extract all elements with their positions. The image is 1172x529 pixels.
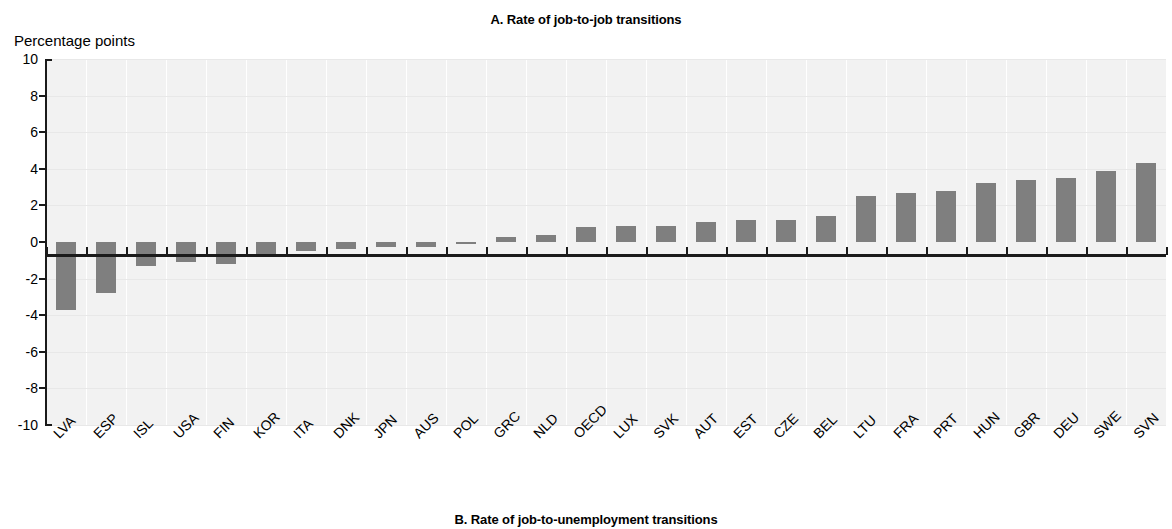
x-axis-tick (806, 247, 808, 255)
x-axis-tick (526, 247, 528, 255)
y-axis-tick-label: 10 (4, 52, 38, 66)
bar-est (736, 220, 756, 242)
bar-aut (696, 222, 716, 242)
x-axis-tick (246, 247, 248, 255)
y-axis-tick-label: 0 (4, 235, 38, 249)
x-axis-category-labels: LVAESPISLUSAFINKORITADNKJPNAUSPOLGRCNLDO… (46, 430, 1166, 490)
bar-oecd (576, 227, 596, 242)
x-axis-tick (86, 247, 88, 255)
y-axis-tick-label: 4 (4, 162, 38, 176)
y-axis-tick-label: 2 (4, 198, 38, 212)
bar-ltu (856, 196, 876, 242)
x-axis-tick (326, 247, 328, 255)
bar-kor (256, 242, 276, 255)
bar-deu (1056, 178, 1076, 242)
bar-bel (816, 216, 836, 242)
bar-grc (496, 237, 516, 242)
bar-lux (616, 226, 636, 242)
bar-nld (536, 235, 556, 242)
bar-ita (296, 242, 316, 251)
y-axis-tick-label: -4 (4, 308, 38, 322)
x-axis-tick (766, 247, 768, 255)
y-axis-tick-label: -2 (4, 272, 38, 286)
bar-fin (216, 242, 236, 264)
x-axis-tick (1126, 247, 1128, 255)
bar-prt (936, 191, 956, 242)
bar-lva (56, 242, 76, 310)
y-axis-unit-label: Percentage points (14, 32, 135, 49)
x-axis-tick (686, 247, 688, 255)
x-axis-tick (886, 247, 888, 255)
x-axis-tick (1006, 247, 1008, 255)
x-axis-tick (1046, 247, 1048, 255)
bar-aus (416, 242, 436, 247)
x-axis-tick (46, 247, 48, 255)
x-axis-tick (286, 247, 288, 255)
x-axis-tick (486, 247, 488, 255)
x-axis-tick (726, 247, 728, 255)
x-axis-tick (166, 247, 168, 255)
y-axis-tick-label: 8 (4, 89, 38, 103)
page-title: A. Rate of job-to-job transitions (0, 12, 1172, 27)
x-axis-tick (606, 247, 608, 255)
bar-fra (896, 193, 916, 242)
x-axis-tick (646, 247, 648, 255)
bar-jpn (376, 242, 396, 247)
bar-swe (1096, 171, 1116, 242)
bar-svk (656, 226, 676, 242)
bar-svn (1136, 163, 1156, 242)
x-axis-tick (446, 247, 448, 255)
x-axis-tick (966, 247, 968, 255)
chart-panel-a: A. Rate of job-to-job transitions Percen… (0, 0, 1172, 529)
y-axis-tick-label: -10 (4, 418, 38, 432)
x-axis-tick (1166, 247, 1168, 255)
bar-usa (176, 242, 196, 262)
x-axis-tick (366, 247, 368, 255)
bar-cze (776, 220, 796, 242)
bar-gbr (1016, 180, 1036, 242)
y-axis-tick-label: 6 (4, 125, 38, 139)
bar-dnk (336, 242, 356, 249)
next-panel-title: B. Rate of job-to-unemployment transitio… (0, 512, 1172, 529)
bar-hun (976, 183, 996, 242)
bar-series (46, 59, 1166, 425)
bar-pol (456, 242, 476, 244)
bar-esp (96, 242, 116, 293)
x-axis-tick (846, 247, 848, 255)
x-axis-tick (206, 247, 208, 255)
x-axis-tick (126, 247, 128, 255)
x-axis-tick (926, 247, 928, 255)
x-axis-tick (406, 247, 408, 255)
x-axis-tick (566, 247, 568, 255)
y-axis-tick-label: -8 (4, 381, 38, 395)
y-axis-tick-label: -6 (4, 345, 38, 359)
x-axis-tick (1086, 247, 1088, 255)
